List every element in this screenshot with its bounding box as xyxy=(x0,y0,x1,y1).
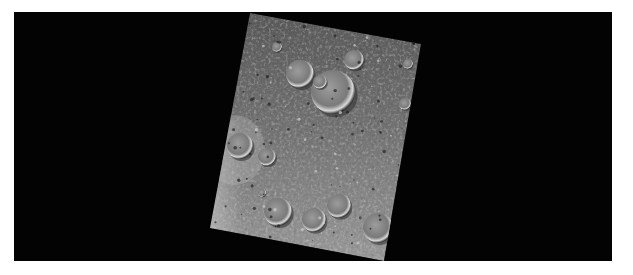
pit xyxy=(359,216,362,219)
pit xyxy=(351,133,354,136)
pit xyxy=(256,74,259,77)
pit xyxy=(263,143,266,146)
pit xyxy=(268,29,269,30)
pit xyxy=(335,225,337,227)
terrain-strip xyxy=(200,13,421,270)
pit xyxy=(416,208,419,211)
pit xyxy=(404,206,406,208)
crater xyxy=(227,133,253,159)
pit xyxy=(249,153,252,156)
pit xyxy=(322,20,324,22)
pit xyxy=(359,68,361,70)
pit xyxy=(230,45,231,46)
pit xyxy=(416,20,418,22)
pit xyxy=(313,249,315,251)
crater xyxy=(327,194,351,218)
pit xyxy=(262,45,265,48)
pit xyxy=(418,251,421,254)
pit xyxy=(268,208,272,212)
pit xyxy=(326,19,328,21)
pit xyxy=(304,138,307,141)
pit xyxy=(377,100,380,103)
pit xyxy=(372,20,373,21)
pit xyxy=(399,194,401,196)
pit xyxy=(210,105,212,107)
pit xyxy=(270,82,272,84)
crater xyxy=(399,98,411,110)
pit xyxy=(287,128,289,130)
pit xyxy=(376,45,378,47)
pit xyxy=(251,184,254,187)
pit xyxy=(268,103,271,106)
pit xyxy=(357,75,359,77)
pit xyxy=(374,117,375,118)
pit xyxy=(415,127,418,130)
pit xyxy=(273,208,276,211)
pit xyxy=(229,232,231,234)
pit xyxy=(225,205,227,207)
pit xyxy=(301,228,304,231)
pit xyxy=(222,92,225,95)
crater xyxy=(272,42,282,52)
pit xyxy=(246,235,248,237)
pit xyxy=(400,32,402,34)
pit xyxy=(213,79,215,81)
pit xyxy=(228,142,230,144)
pit xyxy=(270,215,273,218)
pit xyxy=(313,124,315,126)
pit xyxy=(318,216,321,219)
pit xyxy=(234,49,238,53)
pit xyxy=(380,59,381,60)
pit xyxy=(282,14,285,17)
pit xyxy=(399,64,403,68)
pit xyxy=(218,112,220,114)
pit xyxy=(289,66,292,69)
pit xyxy=(314,170,316,172)
pit xyxy=(353,44,355,46)
pit xyxy=(243,91,245,93)
crater xyxy=(302,208,326,232)
pit xyxy=(366,16,369,19)
pit xyxy=(356,182,358,184)
pit xyxy=(336,18,338,20)
pit xyxy=(402,197,403,198)
pit xyxy=(389,68,390,69)
pit xyxy=(378,215,380,217)
pit xyxy=(224,46,226,48)
pit xyxy=(321,232,323,234)
pit xyxy=(255,132,257,134)
pit xyxy=(315,190,316,191)
pit xyxy=(413,133,415,135)
pit xyxy=(351,234,353,236)
planetary-surface-image xyxy=(0,0,633,275)
pit xyxy=(371,86,372,87)
pit xyxy=(299,118,300,119)
pit xyxy=(353,114,354,115)
pit xyxy=(252,97,255,100)
pit xyxy=(302,19,306,23)
pit xyxy=(311,131,312,132)
pit xyxy=(366,36,369,39)
pit xyxy=(333,89,336,92)
crater xyxy=(363,213,393,243)
pit xyxy=(346,110,349,113)
pit xyxy=(233,146,237,150)
pit xyxy=(307,102,310,105)
pit xyxy=(377,59,380,62)
pit xyxy=(342,255,345,258)
pit xyxy=(361,130,364,133)
pit xyxy=(372,188,375,191)
pit xyxy=(249,23,251,25)
pit xyxy=(232,128,235,131)
pit xyxy=(334,153,337,156)
pit xyxy=(273,35,275,37)
pit xyxy=(256,119,258,121)
pit xyxy=(266,75,269,78)
crater xyxy=(264,198,292,226)
pit xyxy=(335,116,337,118)
pit xyxy=(383,150,386,153)
pit xyxy=(333,232,335,234)
pit xyxy=(357,242,360,245)
pit xyxy=(336,58,339,61)
pit xyxy=(348,87,351,90)
